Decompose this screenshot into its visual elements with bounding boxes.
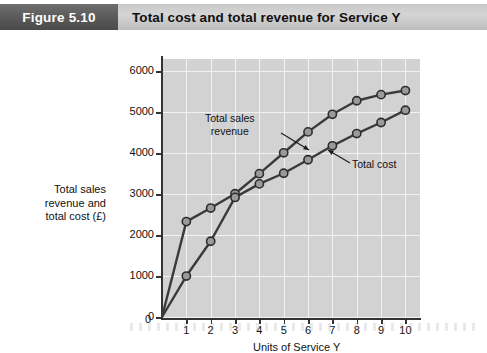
y-axis-title-line1: Total sales [54, 183, 106, 195]
y-axis-title: Total sales revenue and total cost (£) [18, 183, 106, 224]
data-point-marker [304, 128, 312, 136]
figure-header: Figure 5.10 Total cost and total revenue… [0, 4, 487, 30]
x-axis-title: Units of Service Y [253, 341, 433, 353]
y-axis-title-line3: total cost (£) [45, 210, 106, 222]
data-point-marker [353, 129, 361, 137]
data-point-marker [353, 97, 361, 105]
data-point-marker [401, 86, 409, 94]
figure-title: Total cost and total revenue for Service… [118, 4, 487, 30]
y-axis-title-line2: revenue and [45, 197, 106, 209]
page-footer-text-fragment [130, 323, 480, 331]
data-point-marker [328, 142, 336, 150]
data-point-marker [280, 169, 288, 177]
data-point-marker [255, 180, 263, 188]
data-point-marker [207, 237, 215, 245]
series-line-total-sales-revenue [162, 91, 405, 317]
data-point-marker [182, 217, 190, 225]
annotation-cost-line1: Total cost [352, 158, 396, 170]
chart-container: 0100020003000400050006000012345678910 To… [0, 30, 487, 333]
data-point-marker [304, 156, 312, 164]
annotation-revenue-line2: revenue [211, 125, 249, 137]
data-point-marker [280, 149, 288, 157]
data-point-marker [231, 193, 239, 201]
data-point-marker [377, 118, 385, 126]
data-point-marker [401, 106, 409, 114]
annotation-total-cost: Total cost [352, 158, 396, 171]
data-point-marker [207, 204, 215, 212]
annotation-total-sales-revenue: Total sales revenue [205, 112, 255, 137]
figure-number-tag: Figure 5.10 [0, 4, 118, 30]
annotation-revenue-line1: Total sales [205, 112, 255, 124]
data-point-marker [328, 110, 336, 118]
data-point-marker [182, 272, 190, 280]
series-layer [0, 30, 487, 333]
data-point-marker [255, 170, 263, 178]
data-point-marker [377, 91, 385, 99]
